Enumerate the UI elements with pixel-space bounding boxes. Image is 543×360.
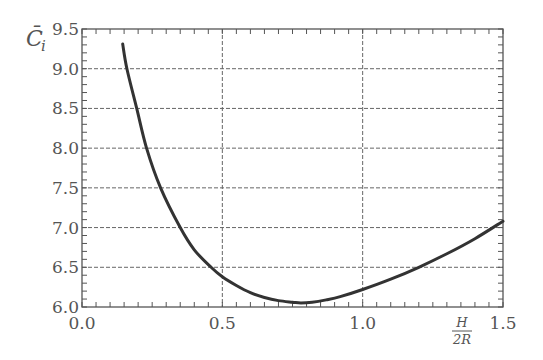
x-axis-label: H 2R [452,315,472,347]
y-tick-label: 7.0 [52,218,79,238]
x-tick-label: 1.0 [349,313,376,333]
x-axis-label-numerator: H [455,315,468,330]
data-series-curve [123,44,503,303]
plot-frame [82,29,503,307]
y-axis-tick-labels: 6.06.57.07.58.08.59.09.5 [52,19,79,317]
x-axis-tick-labels: 0.00.51.01.5 [68,313,516,333]
x-tick-label: 1.5 [489,313,516,333]
x-tick-label: 0.5 [209,313,236,333]
grid-lines [82,29,503,307]
y-tick-label: 6.5 [52,257,79,277]
y-tick-label: 8.5 [52,98,79,118]
line-chart: 6.06.57.07.58.08.59.09.5 0.00.51.01.5 C̄… [0,0,543,360]
x-axis-label-denominator: 2R [452,332,471,347]
y-tick-label: 9.5 [52,19,79,39]
y-tick-label: 9.0 [52,59,79,79]
y-tick-label: 8.0 [52,138,79,158]
y-axis-label-subscript: i [41,37,46,55]
y-tick-label: 7.5 [52,178,79,198]
y-axis-label: C̄ i [26,25,46,55]
minor-ticks [82,29,503,307]
x-tick-label: 0.0 [68,313,95,333]
